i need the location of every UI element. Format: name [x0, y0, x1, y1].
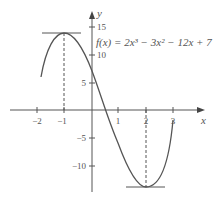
y-axis-arrow	[89, 11, 95, 19]
equation-label: f(x) = 2x³ − 3x² − 12x + 7	[96, 36, 212, 49]
y-tick-label: 10	[97, 50, 107, 60]
x-axis-label: x	[200, 114, 206, 126]
y-axis-label: y	[96, 7, 102, 19]
y-tick-label: 15	[97, 22, 107, 32]
x-tick-label: −1	[57, 116, 67, 126]
y-tick-label: −5	[76, 133, 86, 143]
y-tick-label: 5	[82, 78, 87, 88]
x-axis-arrow	[197, 107, 205, 113]
x-tick-label: 3	[171, 116, 176, 126]
y-tick-label: −10	[72, 161, 87, 171]
x-tick-label: 1	[116, 116, 121, 126]
function-plot: y x f(x) = 2x³ − 3x² − 12x + 7 −2 −1 1 2…	[0, 0, 215, 206]
x-tick-label: −2	[32, 116, 42, 126]
x-tick-label: 2	[144, 116, 149, 126]
